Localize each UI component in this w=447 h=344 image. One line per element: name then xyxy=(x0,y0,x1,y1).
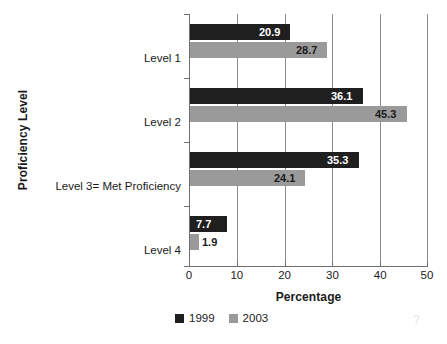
legend: 1999 2003 xyxy=(175,312,268,324)
bar-value-2003-level-4: 1.9 xyxy=(202,234,217,250)
bar-value-1999-level-3: 35.3 xyxy=(327,152,348,168)
y-axis-label-level-2: Level 2 xyxy=(144,116,181,129)
legend-item-1999: 1999 xyxy=(175,312,215,324)
gridline-40 xyxy=(380,14,381,266)
y-axis-label-level-3: Level 3= Met Proficiency xyxy=(55,180,181,193)
x-axis-line xyxy=(189,266,428,267)
bar-value-2003-level-2: 45.3 xyxy=(375,106,396,122)
plot-area: 20.9 28.7 36.1 45.3 35.3 24.1 7.7 1.9 xyxy=(189,14,428,266)
y-axis-category-labels: Level 1 Level 2 Level 3= Met Proficiency… xyxy=(22,14,185,266)
x-tick-label-10: 10 xyxy=(222,269,252,281)
x-tick-10 xyxy=(237,261,238,267)
x-axis-title: Percentage xyxy=(189,290,428,304)
bar-chart: Proficiency Level Level 1 Level 2 Level … xyxy=(0,0,447,344)
gridline-30 xyxy=(332,14,333,266)
x-tick-20 xyxy=(285,261,286,267)
x-tick-label-0: 0 xyxy=(174,269,204,281)
x-tick-label-30: 30 xyxy=(317,269,347,281)
legend-item-2003: 2003 xyxy=(229,312,269,324)
bar-value-1999-level-1: 20.9 xyxy=(259,24,280,40)
bar-value-2003-level-1: 28.7 xyxy=(296,42,317,58)
bar-value-2003-level-3: 24.1 xyxy=(274,170,295,186)
x-tick-label-20: 20 xyxy=(270,269,300,281)
gridline-50 xyxy=(427,14,428,266)
legend-label-1999: 1999 xyxy=(189,312,215,324)
legend-swatch-1999-icon xyxy=(175,314,184,323)
x-tick-30 xyxy=(332,261,333,267)
x-tick-40 xyxy=(380,261,381,267)
y-axis-label-level-1: Level 1 xyxy=(144,52,181,65)
legend-swatch-2003-icon xyxy=(229,314,238,323)
y-axis-label-level-4: Level 4 xyxy=(144,244,181,257)
legend-label-2003: 2003 xyxy=(243,312,269,324)
bar-value-1999-level-4: 7.7 xyxy=(196,216,211,232)
x-tick-label-50: 50 xyxy=(412,269,442,281)
x-tick-0 xyxy=(189,261,190,267)
x-tick-label-40: 40 xyxy=(365,269,395,281)
scan-artifact: ? xyxy=(413,314,429,340)
bar-2003-level-4 xyxy=(190,234,199,250)
x-tick-50 xyxy=(427,261,428,267)
bar-value-1999-level-2: 36.1 xyxy=(331,88,352,104)
